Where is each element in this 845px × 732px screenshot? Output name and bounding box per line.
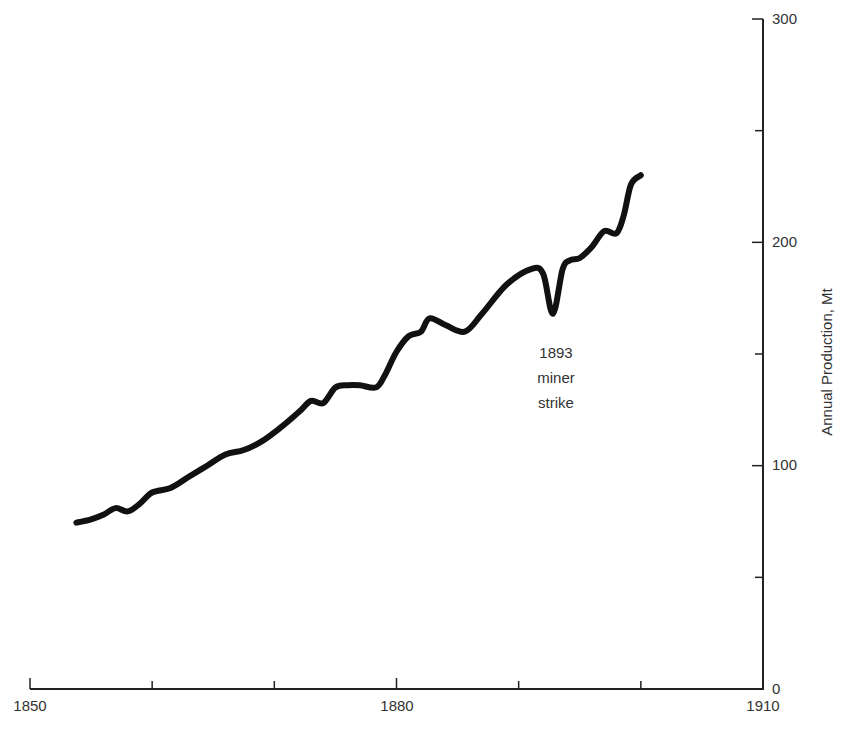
x-tick-label-1880: 1880 <box>380 697 413 714</box>
line-chart: 1850 1880 1910 0 100 200 300 Annual Prod… <box>0 0 845 732</box>
y-tick-label-300: 300 <box>772 10 797 27</box>
strike-annotation: 1893 miner strike <box>537 344 575 411</box>
x-tick-label-1910: 1910 <box>746 697 779 714</box>
y-tick-label-0: 0 <box>772 680 780 697</box>
annotation-year: 1893 <box>539 344 572 361</box>
annotation-word-strike: strike <box>538 394 574 411</box>
y-tick-label-200: 200 <box>772 233 797 250</box>
x-tick-label-1850: 1850 <box>13 697 46 714</box>
y-axis: 0 100 200 300 Annual Production, Mt <box>752 10 835 697</box>
annotation-word-miner: miner <box>537 369 575 386</box>
y-axis-title: Annual Production, Mt <box>818 287 835 435</box>
x-axis: 1850 1880 1910 <box>13 678 779 714</box>
y-tick-label-100: 100 <box>772 456 797 473</box>
